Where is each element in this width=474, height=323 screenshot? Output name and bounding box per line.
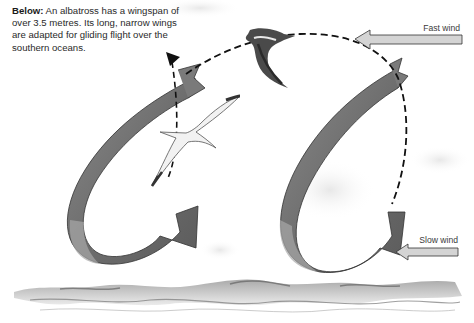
caption-lead: Below: xyxy=(12,5,43,16)
diagram-stage: Below: An albatross has a wingspan of ov… xyxy=(0,0,474,323)
slow-wind-label: Slow wind xyxy=(400,235,458,245)
sea-waves xyxy=(14,279,462,312)
albatross-upper xyxy=(246,28,295,88)
left-loop-ribbon xyxy=(67,64,205,264)
fast-wind-label: Fast wind xyxy=(400,23,460,33)
caption: Below: An albatross has a wingspan of ov… xyxy=(12,5,182,54)
slow-wind-arrow xyxy=(396,244,458,260)
